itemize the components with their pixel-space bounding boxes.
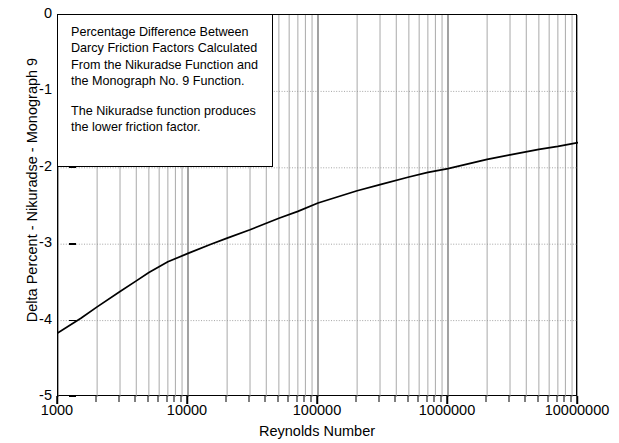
x-minor-tick: [525, 396, 526, 402]
x-tick-label: 1000000: [419, 403, 475, 418]
annotation-line-1: Percentage Difference Between: [71, 24, 272, 40]
y-tick-label: -5: [18, 388, 52, 403]
x-minor-tick: [379, 396, 380, 402]
annotation-line-3: From the Nikuradse Function and: [71, 57, 272, 73]
x-minor-tick: [119, 396, 120, 402]
x-tick-label: 100000: [293, 403, 341, 418]
x-minor-tick: [537, 396, 538, 402]
x-axis-title: Reynolds Number: [57, 423, 577, 439]
y-tick-mark: [69, 396, 76, 397]
annotation-line-4: the Monograph No. 9 Function.: [71, 73, 272, 89]
x-minor-tick: [158, 396, 159, 402]
x-minor-tick: [135, 396, 136, 402]
x-tick-label: 10000: [167, 403, 207, 418]
annotation-line-5: The Nikuradse function produces: [71, 103, 272, 119]
y-axis-title: Delta Percent - Nikuradse - Monograph 9: [24, 0, 40, 385]
x-minor-tick: [277, 396, 278, 402]
x-minor-tick: [395, 396, 396, 402]
annotation-textbox: Percentage Difference Between Darcy Fric…: [57, 14, 273, 167]
x-minor-tick: [226, 396, 227, 402]
x-minor-tick: [249, 396, 250, 402]
chart-figure: Percentage Difference Between Darcy Fric…: [0, 0, 619, 443]
x-tick-label: 1000: [41, 403, 73, 418]
y-tick-mark: [69, 243, 76, 244]
annotation-line-2: Darcy Friction Factors Calculated: [71, 40, 272, 56]
x-minor-tick: [288, 396, 289, 402]
annotation-spacer: [71, 90, 272, 103]
y-tick-mark: [69, 167, 76, 168]
x-minor-tick: [147, 396, 148, 402]
x-minor-tick: [265, 396, 266, 402]
x-minor-tick: [509, 396, 510, 402]
x-minor-tick: [407, 396, 408, 402]
annotation-line-6: the lower friction factor.: [71, 119, 272, 135]
x-tick-label: 10000000: [545, 403, 610, 418]
x-minor-tick: [356, 396, 357, 402]
y-tick-mark: [69, 320, 76, 321]
x-minor-tick: [486, 396, 487, 402]
x-minor-tick: [96, 396, 97, 402]
